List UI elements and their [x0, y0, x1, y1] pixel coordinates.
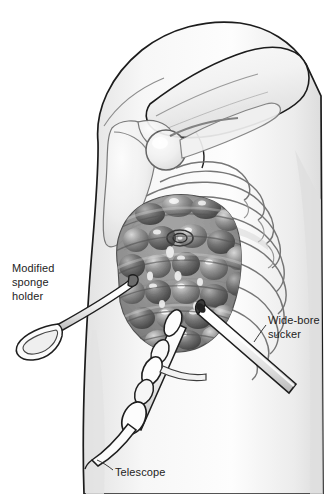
label-telescope: Telescope — [115, 465, 165, 479]
label-wide-bore-sucker: Wide-bore sucker — [268, 313, 320, 341]
surgical-illustration — [0, 0, 329, 494]
bulla — [172, 280, 200, 304]
humeral-head — [146, 130, 186, 170]
sponge-holder-tip — [128, 275, 138, 287]
bulla — [145, 280, 171, 304]
label-modified-sponge-holder: Modified sponge holder — [12, 261, 54, 303]
humeral-head-highlight — [152, 137, 168, 149]
